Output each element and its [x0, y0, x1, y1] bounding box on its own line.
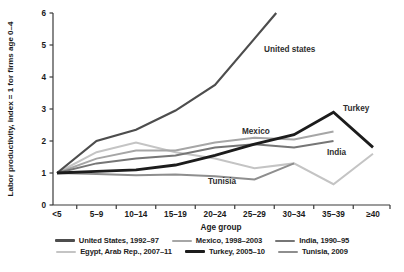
x-tick-label: 20–24	[204, 210, 227, 219]
legend-item-turkey: Turkey, 2005–10	[185, 247, 265, 256]
legend-label-egypt: Egypt, Arab Rep., 2007–11	[80, 247, 172, 256]
x-axis-title: Age group	[201, 223, 242, 232]
legend-swatch-tunisia	[278, 251, 298, 253]
y-tick-label: 0	[41, 201, 46, 210]
x-tick-label: 35–39	[322, 210, 345, 219]
y-tick-label: 3	[41, 105, 46, 114]
series-label-united-states: United states	[264, 45, 316, 54]
line-chart: 0123456<55–910–1415–1920–2425–2930–3435–…	[0, 0, 404, 234]
x-tick-label: 10–14	[125, 210, 148, 219]
legend-item-tunisia: Tunisia, 2009	[278, 247, 348, 256]
series-label-mexico: Mexico	[242, 127, 270, 136]
x-tick-label: ≥40	[366, 210, 380, 219]
x-tick-label: 30–34	[283, 210, 306, 219]
y-axis-title: Labor productivity, index = 1 for firms …	[6, 21, 15, 196]
labor-productivity-figure: 0123456<55–910–1415–1920–2425–2930–3435–…	[0, 0, 404, 272]
legend-swatch-united-states	[55, 239, 75, 241]
legend-swatch-mexico	[172, 240, 192, 242]
legend-label-turkey: Turkey, 2005–10	[209, 247, 265, 256]
legend-label-mexico: Mexico, 1998–2003	[196, 236, 262, 245]
x-tick-label: 25–29	[243, 210, 266, 219]
x-tick-label: 5–9	[90, 210, 104, 219]
legend-swatch-egypt	[56, 251, 76, 253]
legend-label-india: India, 1990–95	[299, 236, 349, 245]
legend-item-egypt: Egypt, Arab Rep., 2007–11	[56, 247, 172, 256]
series-label-india: India	[327, 148, 347, 157]
legend-item-india: India, 1990–95	[275, 236, 349, 245]
legend-swatch-india	[275, 240, 295, 242]
series-label-turkey: Turkey	[343, 104, 370, 113]
y-tick-label: 4	[41, 73, 46, 82]
legend-swatch-turkey	[185, 250, 205, 253]
legend: United States, 1992–97Mexico, 1998–2003I…	[0, 236, 404, 256]
y-tick-label: 1	[41, 169, 46, 178]
legend-item-united-states: United States, 1992–97	[55, 236, 159, 245]
x-tick-label: 15–19	[164, 210, 187, 219]
legend-item-mexico: Mexico, 1998–2003	[172, 236, 262, 245]
legend-row: Egypt, Arab Rep., 2007–11Turkey, 2005–10…	[56, 247, 348, 256]
y-tick-label: 2	[41, 137, 46, 146]
x-tick-label: <5	[52, 210, 62, 219]
series-line-united-states	[57, 13, 276, 173]
legend-label-united-states: United States, 1992–97	[79, 236, 159, 245]
y-tick-label: 5	[41, 41, 46, 50]
legend-label-tunisia: Tunisia, 2009	[302, 247, 348, 256]
legend-row: United States, 1992–97Mexico, 1998–2003I…	[55, 236, 350, 245]
series-label-tunisia: Tunisia	[208, 177, 236, 186]
y-tick-label: 6	[41, 9, 46, 18]
